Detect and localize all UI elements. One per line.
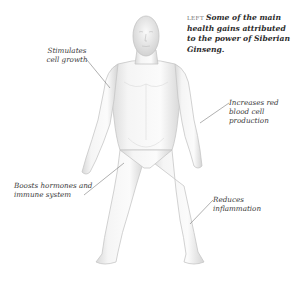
body-silhouette — [82, 50, 204, 264]
figure-caption: LEFTSome of the main health gains attrib… — [187, 13, 291, 55]
caption-lead: LEFT — [187, 15, 204, 21]
annotation-hormones-immune-system: Boosts hormones and immune system — [14, 181, 94, 199]
infographic: LEFTSome of the main health gains attrib… — [0, 0, 291, 284]
annotation-red-blood-cell-production: Increases red blood cell production — [229, 98, 289, 126]
annotation-reduces-inflammation: Reduces inflammation — [213, 195, 283, 213]
annotation-stimulates-cell-growth: Stimulates cell growth — [45, 46, 89, 64]
